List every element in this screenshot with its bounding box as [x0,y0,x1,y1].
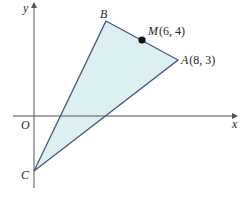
x-axis-label: x [231,117,238,131]
point-m-coords: (6, 4) [159,24,185,38]
point-a-label: A(8, 3) [180,53,215,67]
point-m-label: M(6, 4) [147,24,185,38]
triangle-abc [34,21,178,171]
point-a-name: A [180,53,189,67]
y-axis-label: y [22,1,29,15]
origin-label: O [21,118,30,132]
point-b-label: B [100,7,108,21]
point-m-name: M [147,24,159,38]
point-m-marker [138,36,145,43]
point-c-label: C [21,168,30,182]
point-a-coords: (8, 3) [189,53,215,67]
coordinate-diagram: y x O B C M(6, 4) A(8, 3) [0,0,247,197]
